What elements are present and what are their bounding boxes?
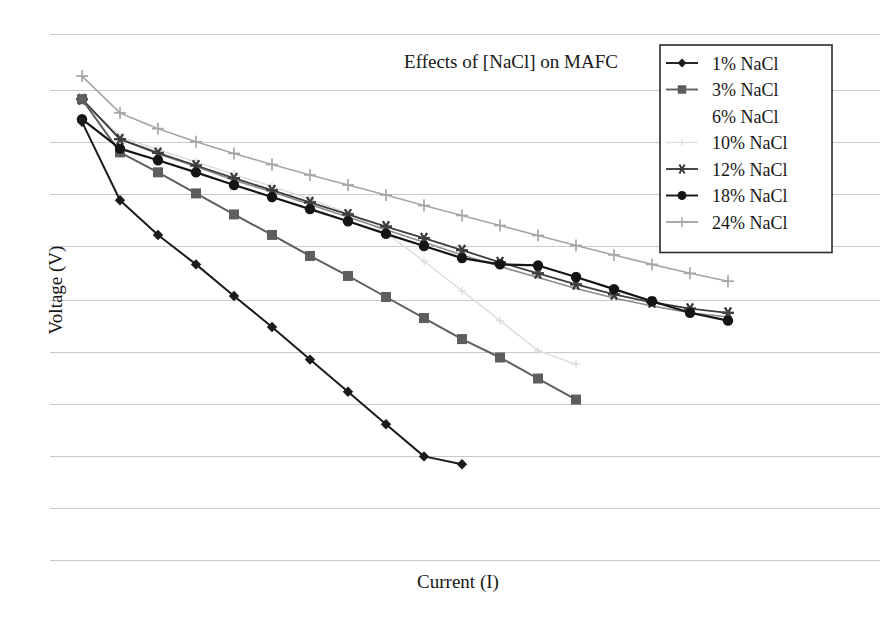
chart-canvas: Effects of [NaCl] on MAFC Current (I) Vo…: [0, 0, 891, 627]
data-point-marker-square: [457, 334, 467, 344]
legend-marker-circle: [678, 191, 687, 200]
data-point-marker-circle: [647, 296, 657, 306]
legend-item-6-nacl[interactable]: 6% NaCl: [712, 107, 779, 127]
data-point-marker-circle: [305, 204, 315, 214]
data-point-marker-square: [571, 395, 581, 405]
data-point-marker-circle: [685, 308, 695, 318]
data-point-marker-square: [229, 209, 239, 219]
data-point-marker-circle: [153, 155, 163, 165]
chart-legend[interactable]: 1% NaCl3% NaCl6% NaCl10% NaCl12% NaCl18%…: [660, 45, 832, 253]
legend-marker-square: [678, 85, 687, 94]
data-point-marker-circle: [191, 167, 201, 177]
legend-label: 6% NaCl: [712, 107, 779, 127]
data-point-marker-square: [533, 374, 543, 384]
data-point-marker-circle: [115, 143, 125, 153]
data-point-marker-circle: [267, 192, 277, 202]
legend-label: 10% NaCl: [712, 133, 788, 153]
data-point-marker-circle: [229, 180, 239, 190]
data-point-marker-square: [267, 230, 277, 240]
data-point-marker-circle: [457, 253, 467, 263]
data-point-marker-square: [77, 94, 87, 104]
data-point-marker-circle: [419, 241, 429, 251]
chart-figure: Effects of [NaCl] on MAFC Current (I) Vo…: [0, 0, 891, 627]
data-point-marker-square: [495, 352, 505, 362]
data-point-marker-circle: [495, 259, 505, 269]
y-axis-label: Voltage (V): [45, 246, 67, 335]
data-point-marker-circle: [343, 216, 353, 226]
legend-label: 1% NaCl: [712, 54, 779, 74]
data-point-marker-circle: [723, 315, 733, 325]
data-point-marker-circle: [533, 260, 543, 270]
legend-label: 24% NaCl: [712, 213, 788, 233]
data-point-marker-circle: [609, 284, 619, 294]
data-point-marker-square: [419, 313, 429, 323]
legend-label: 18% NaCl: [712, 186, 788, 206]
data-point-marker-square: [153, 167, 163, 177]
x-axis-label: Current (I): [417, 571, 499, 593]
legend-label: 3% NaCl: [712, 80, 779, 100]
data-point-marker-square: [343, 271, 353, 281]
data-point-marker-square: [305, 251, 315, 261]
data-point-marker-circle: [381, 229, 391, 239]
data-point-marker-square: [191, 188, 201, 198]
legend-label: 12% NaCl: [712, 160, 788, 180]
data-point-marker-square: [381, 292, 391, 302]
data-point-marker-circle: [571, 272, 581, 282]
chart-title: Effects of [NaCl] on MAFC: [404, 51, 618, 72]
